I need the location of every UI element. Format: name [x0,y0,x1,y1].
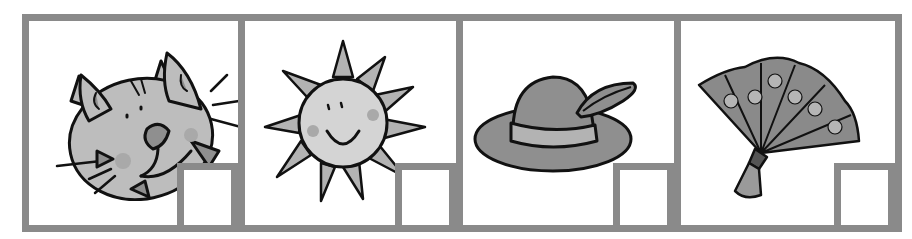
answer-checkbox-fan[interactable] [834,163,895,225]
answer-checkbox-cat[interactable] [177,163,238,225]
panel-hat: hat [463,21,674,225]
answer-checkbox-hat[interactable] [613,163,674,225]
answer-checkbox-sun[interactable] [395,163,456,225]
panel-divider [238,21,245,225]
picture-strip: cat [22,14,902,232]
panel-sun: sun [245,21,456,225]
panel-divider [456,21,463,225]
panel-cat: cat [29,21,238,225]
panel-divider [674,21,681,225]
panel-fan: fan [681,21,895,225]
